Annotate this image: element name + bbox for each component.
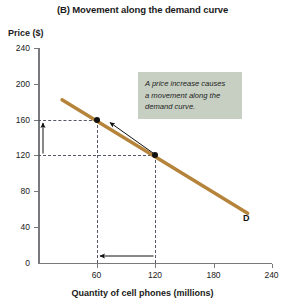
- movement-along-curve-arrow: [110, 123, 157, 156]
- chart-figure: (B) Movement along the demand curve Pric…: [0, 0, 285, 308]
- annotation-line-2: a movement along the: [145, 91, 220, 100]
- annotation-arrows: [0, 0, 285, 308]
- annotation-text: A price increase causes a movement along…: [145, 78, 235, 113]
- plot-area: 240 200 160 120 80 40 0 60 120 180 240: [0, 0, 285, 308]
- annotation-line-1: A price increase causes: [145, 79, 225, 88]
- annotation-line-3: demand curve.: [145, 102, 195, 111]
- annotation-box: A price increase causes a movement along…: [138, 72, 242, 119]
